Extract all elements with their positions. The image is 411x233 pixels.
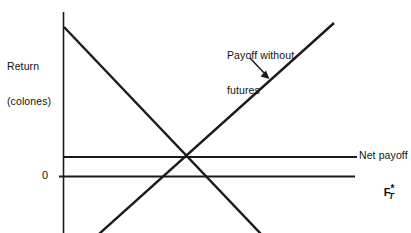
y-axis-label-line2: (colones): [7, 96, 51, 108]
annotation-line1: Payoff without: [227, 50, 294, 62]
futures-price-subscript: T: [388, 191, 394, 201]
y-axis-label: Return (colones): [7, 38, 51, 130]
label-futures-price: F*T: [371, 170, 400, 213]
y-axis-label-line1: Return: [7, 61, 51, 73]
label-net-payoff: Net payoff: [359, 150, 408, 162]
y-axis-tick-zero: 0: [42, 170, 48, 182]
chart-plot-area: [0, 0, 411, 233]
annotation-line2: futures: [227, 85, 294, 97]
payoff-diagram-figure: Return (colones) 0 Payoff without future…: [0, 0, 411, 233]
chart-background: [0, 0, 411, 233]
annotation-payoff-without-futures: Payoff without futures: [227, 27, 294, 119]
